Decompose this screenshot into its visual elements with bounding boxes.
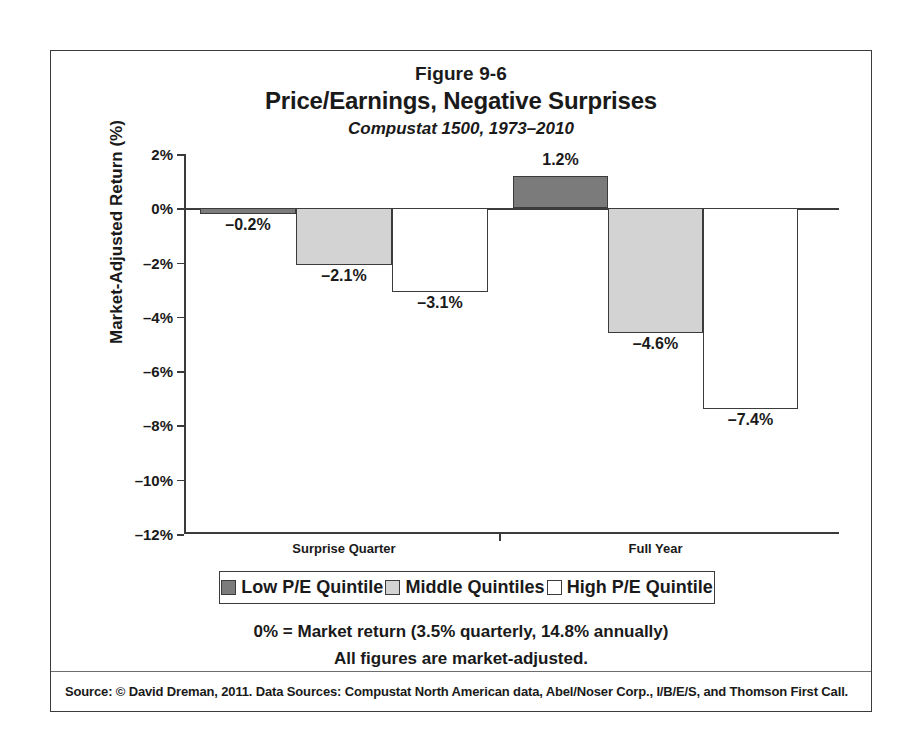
y-axis-line — [184, 154, 186, 534]
legend-label: Middle Quintiles — [405, 577, 544, 598]
bar — [392, 208, 488, 292]
y-axis-tick-label: –12% — [135, 526, 173, 543]
figure-title: Price/Earnings, Negative Surprises — [51, 86, 871, 116]
x-axis-category-label: Full Year — [629, 541, 683, 556]
y-axis-tick — [177, 534, 184, 536]
plot-area: 2%0%–2%–4%–6%–8%–10%–12% –0.2%–2.1%–3.1%… — [184, 154, 839, 534]
y-axis-tick — [177, 371, 184, 373]
bar-value-label: –7.4% — [728, 411, 773, 429]
y-axis-tick-label: –2% — [143, 254, 173, 271]
y-axis-tick-label: –10% — [135, 471, 173, 488]
legend-label: Low P/E Quintile — [241, 577, 383, 598]
x-axis-line — [184, 532, 839, 534]
legend-item[interactable]: High P/E Quintile — [547, 577, 713, 598]
legend-item[interactable]: Middle Quintiles — [385, 577, 544, 598]
figure-number: Figure 9-6 — [51, 61, 871, 86]
y-axis-tick-label: –4% — [143, 308, 173, 325]
title-block: Figure 9-6 Price/Earnings, Negative Surp… — [51, 61, 871, 142]
bar — [200, 208, 296, 213]
x-axis-category-label: Surprise Quarter — [292, 541, 395, 556]
bar-value-label: –0.2% — [225, 216, 270, 234]
bar — [513, 176, 608, 209]
source-divider — [51, 671, 871, 672]
source-text: Source: © David Dreman, 2011. Data Sourc… — [65, 684, 861, 699]
y-axis-tick-label: –8% — [143, 417, 173, 434]
y-axis-tick — [177, 425, 184, 427]
note-line-2: All figures are market-adjusted. — [51, 645, 871, 672]
y-axis-tick-label: –6% — [143, 363, 173, 380]
notes-block: 0% = Market return (3.5% quarterly, 14.8… — [51, 618, 871, 672]
bar — [703, 208, 798, 409]
y-axis-title: Market-Adjusted Return (%) — [107, 120, 127, 344]
bar-value-label: 1.2% — [542, 151, 578, 169]
chart-legend: Low P/E QuintileMiddle QuintilesHigh P/E… — [219, 571, 715, 604]
legend-label: High P/E Quintile — [567, 577, 713, 598]
bar-value-label: –2.1% — [321, 267, 366, 285]
legend-swatch-icon — [547, 580, 562, 595]
note-line-1: 0% = Market return (3.5% quarterly, 14.8… — [51, 618, 871, 645]
bar — [296, 208, 392, 265]
bar-value-label: –3.1% — [417, 294, 462, 312]
figure-frame: Figure 9-6 Price/Earnings, Negative Surp… — [50, 50, 872, 712]
legend-item[interactable]: Low P/E Quintile — [221, 577, 383, 598]
y-axis-tick — [177, 480, 184, 482]
legend-swatch-icon — [385, 580, 400, 595]
figure-subtitle: Compustat 1500, 1973–2010 — [51, 116, 871, 142]
bar-value-label: –4.6% — [633, 335, 678, 353]
y-axis-tick — [177, 317, 184, 319]
y-axis-tick — [177, 263, 184, 265]
x-axis-group-tick — [499, 534, 501, 541]
bar — [608, 208, 703, 333]
y-axis-tick — [177, 154, 184, 156]
y-axis-tick-label: 0% — [151, 200, 173, 217]
legend-swatch-icon — [221, 580, 236, 595]
y-axis-tick-label: 2% — [151, 146, 173, 163]
y-axis-tick — [177, 208, 184, 210]
